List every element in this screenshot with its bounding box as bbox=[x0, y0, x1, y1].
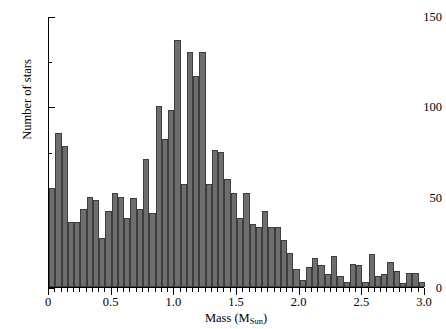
x-axis-minor-tick bbox=[223, 288, 224, 292]
x-axis-minor-tick bbox=[274, 288, 275, 292]
x-axis-minor-tick bbox=[136, 288, 137, 292]
histogram-bar bbox=[419, 282, 425, 287]
x-axis-minor-tick bbox=[411, 288, 412, 292]
x-axis-minor-tick bbox=[317, 288, 318, 292]
x-axis-minor-tick bbox=[330, 288, 331, 292]
x-axis-minor-tick bbox=[336, 288, 337, 292]
x-axis-minor-tick bbox=[205, 288, 206, 292]
x-axis-tick bbox=[361, 288, 362, 295]
x-axis-minor-tick bbox=[368, 288, 369, 292]
x-axis-minor-tick bbox=[305, 288, 306, 292]
x-axis-minor-tick bbox=[349, 288, 350, 292]
x-axis-minor-tick bbox=[198, 288, 199, 292]
x-axis-tick-label: 0.5 bbox=[89, 296, 133, 309]
x-axis-minor-tick bbox=[311, 288, 312, 292]
x-axis-minor-tick bbox=[399, 288, 400, 292]
x-axis-minor-tick bbox=[393, 288, 394, 292]
x-axis-minor-tick bbox=[374, 288, 375, 292]
x-axis-minor-tick bbox=[54, 288, 55, 292]
x-axis-tick-label: 1.0 bbox=[151, 296, 195, 309]
x-axis-minor-tick bbox=[161, 288, 162, 292]
x-axis-tick bbox=[424, 288, 425, 295]
x-axis-minor-tick bbox=[142, 288, 143, 292]
x-axis-tick-label: 1.5 bbox=[214, 296, 258, 309]
x-axis-minor-tick bbox=[217, 288, 218, 292]
x-axis-minor-tick bbox=[343, 288, 344, 292]
x-axis-minor-tick bbox=[98, 288, 99, 292]
x-axis-title-tail: ) bbox=[263, 311, 267, 325]
x-axis-minor-tick bbox=[129, 288, 130, 292]
x-axis-minor-tick bbox=[242, 288, 243, 292]
x-axis-minor-tick bbox=[386, 288, 387, 292]
x-axis-minor-tick bbox=[261, 288, 262, 292]
x-axis-minor-tick bbox=[180, 288, 181, 292]
x-axis-minor-tick bbox=[418, 288, 419, 292]
x-axis-tick-label: 3.0 bbox=[402, 296, 446, 309]
x-axis-minor-tick bbox=[255, 288, 256, 292]
x-axis-minor-tick bbox=[249, 288, 250, 292]
x-axis-title: Mass (MSun) bbox=[48, 311, 424, 326]
x-axis-tick-label: 2.5 bbox=[339, 296, 383, 309]
x-axis-minor-tick bbox=[86, 288, 87, 292]
x-axis-minor-tick bbox=[405, 288, 406, 292]
x-axis-minor-tick bbox=[67, 288, 68, 292]
x-axis-minor-tick bbox=[79, 288, 80, 292]
bar-series bbox=[49, 17, 424, 287]
x-axis-minor-tick bbox=[355, 288, 356, 292]
x-axis-tick bbox=[299, 288, 300, 295]
plot-area bbox=[48, 17, 424, 288]
x-axis-minor-tick bbox=[280, 288, 281, 292]
x-axis-minor-tick bbox=[117, 288, 118, 292]
x-axis-minor-tick bbox=[61, 288, 62, 292]
x-axis-minor-tick bbox=[104, 288, 105, 292]
x-axis-minor-tick bbox=[192, 288, 193, 292]
x-axis-title-subscript: Sun bbox=[250, 316, 263, 326]
x-axis-tick bbox=[173, 288, 174, 295]
x-axis-minor-tick bbox=[380, 288, 381, 292]
x-axis-tick bbox=[111, 288, 112, 295]
x-axis-minor-tick bbox=[211, 288, 212, 292]
x-axis-minor-tick bbox=[123, 288, 124, 292]
x-axis-minor-tick bbox=[148, 288, 149, 292]
x-axis-minor-tick bbox=[73, 288, 74, 292]
x-axis-tick bbox=[236, 288, 237, 295]
x-axis-minor-tick bbox=[286, 288, 287, 292]
x-axis-minor-tick bbox=[292, 288, 293, 292]
x-axis-tick-label: 0 bbox=[26, 296, 70, 309]
y-axis-title: Number of stars bbox=[20, 10, 35, 190]
x-axis-minor-tick bbox=[324, 288, 325, 292]
x-axis-title-main: Mass (M bbox=[205, 311, 250, 325]
x-axis-tick bbox=[48, 288, 49, 295]
x-axis-tick-label: 2.0 bbox=[277, 296, 321, 309]
x-axis-minor-tick bbox=[230, 288, 231, 292]
x-axis-minor-tick bbox=[167, 288, 168, 292]
x-axis-minor-tick bbox=[267, 288, 268, 292]
x-axis-minor-tick bbox=[92, 288, 93, 292]
x-axis-minor-tick bbox=[155, 288, 156, 292]
x-axis-minor-tick bbox=[186, 288, 187, 292]
